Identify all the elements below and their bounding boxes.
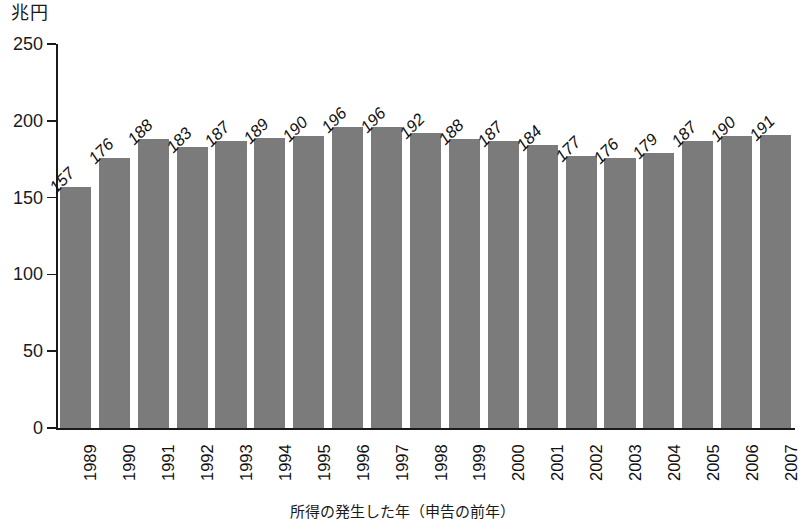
y-axis-tick-label-wrap: 100 xyxy=(0,265,43,283)
bar xyxy=(410,133,441,428)
y-axis-tick xyxy=(47,350,56,352)
x-axis-line xyxy=(56,428,795,430)
x-axis-tick-label: 1989 xyxy=(82,444,99,481)
x-axis-tick-label: 2005 xyxy=(705,444,722,481)
x-axis-tick-label: 2004 xyxy=(666,444,683,481)
x-axis-tick-label: 1995 xyxy=(316,444,333,481)
x-axis-tick-label: 2001 xyxy=(549,444,566,481)
bar xyxy=(293,136,324,428)
y-axis-tick-label-wrap: 0 xyxy=(0,419,43,437)
x-axis-tick-label: 1990 xyxy=(121,444,138,481)
bar xyxy=(682,141,713,428)
bar xyxy=(721,136,752,428)
x-axis-tick-label: 1996 xyxy=(355,444,372,481)
y-axis-tick-label-wrap: 200 xyxy=(0,112,43,130)
x-axis-tick-label: 1991 xyxy=(160,444,177,481)
bar xyxy=(371,127,402,428)
y-axis-tick xyxy=(47,274,56,276)
y-axis-tick-label-wrap: 50 xyxy=(0,342,43,360)
y-axis-tick-label: 50 xyxy=(23,342,43,360)
bar xyxy=(215,141,246,428)
bar xyxy=(527,145,558,428)
bar xyxy=(99,158,130,428)
x-axis-tick-label: 2007 xyxy=(783,444,800,481)
x-axis-tick-label: 1999 xyxy=(471,444,488,481)
plot-area xyxy=(56,44,795,428)
bar xyxy=(60,187,91,428)
x-axis-tick-label: 2006 xyxy=(744,444,761,481)
y-axis-tick xyxy=(47,120,56,122)
x-axis-tick-label: 1994 xyxy=(277,444,294,481)
y-axis-tick-label-wrap: 150 xyxy=(0,189,43,207)
x-axis-tick-label: 2003 xyxy=(627,444,644,481)
bar xyxy=(488,141,519,428)
bar xyxy=(643,153,674,428)
y-axis-tick-label: 200 xyxy=(13,112,43,130)
x-axis-tick-label: 2002 xyxy=(588,444,605,481)
y-axis-tick xyxy=(47,197,56,199)
x-axis-tick-label: 1998 xyxy=(433,444,450,481)
x-axis-tick-label: 1993 xyxy=(238,444,255,481)
x-axis-tick-label: 1997 xyxy=(394,444,411,481)
bar xyxy=(332,127,363,428)
y-axis-tick xyxy=(47,43,56,45)
bar xyxy=(138,139,169,428)
bar xyxy=(760,135,791,428)
bar xyxy=(254,138,285,428)
y-axis-tick-label: 250 xyxy=(13,35,43,53)
y-axis-tick-label: 100 xyxy=(13,265,43,283)
x-axis-tick-label: 2000 xyxy=(510,444,527,481)
bar xyxy=(604,158,635,428)
bar xyxy=(449,139,480,428)
bar xyxy=(177,147,208,428)
y-axis-tick-label: 0 xyxy=(33,419,43,437)
bar xyxy=(566,156,597,428)
y-axis-tick xyxy=(47,427,56,429)
y-axis-tick-label: 150 xyxy=(13,189,43,207)
x-axis-tick-label: 1992 xyxy=(199,444,216,481)
y-axis-unit-label: 兆円 xyxy=(11,2,48,24)
y-axis-tick-label-wrap: 250 xyxy=(0,35,43,53)
chart-caption: 所得の発生した年（申告の前年） xyxy=(0,503,805,521)
